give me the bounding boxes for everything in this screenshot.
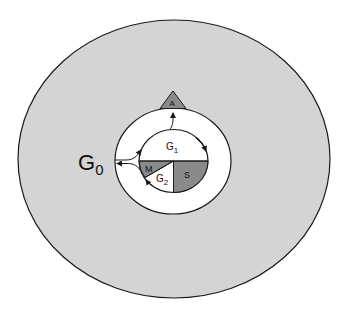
label-s: S: [184, 170, 190, 180]
label-a: A: [170, 99, 176, 108]
diagram-canvas: G0 G1 G2 S M A: [0, 0, 344, 316]
label-m: M: [145, 164, 153, 174]
cell-cycle-diagram: G0 G1 G2 S M A: [0, 0, 344, 316]
